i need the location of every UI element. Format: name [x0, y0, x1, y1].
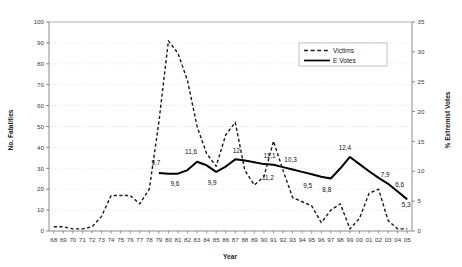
x-axis-tick-label: 76	[127, 236, 134, 243]
x-axis-tick-label: 92	[280, 236, 287, 243]
data-label: 9,9	[208, 179, 217, 186]
left-axis-tick-label: 20	[37, 185, 44, 192]
x-axis-tick-label: 81	[175, 236, 182, 243]
x-axis-tick-label: 71	[79, 236, 86, 243]
left-axis-tick-label: 90	[37, 39, 44, 46]
x-axis-tick-label: 82	[184, 236, 191, 243]
x-axis-tick-label: 98	[337, 236, 344, 243]
data-label: 11,1	[264, 152, 276, 159]
x-axis-tick-label: 73	[98, 236, 105, 243]
x-axis-tick-label: 89	[251, 236, 258, 243]
x-axis-tick-label: 95	[308, 236, 315, 243]
right-axis-title: % Extremist Votes	[444, 91, 451, 148]
x-axis-tick-label: 84	[203, 236, 210, 243]
left-axis-title: No. Fatalities	[7, 109, 14, 150]
left-axis-tick-label: 80	[37, 60, 44, 67]
right-axis-tick-label: 10	[418, 167, 425, 174]
data-label: 8,8	[322, 186, 331, 193]
chart-background	[0, 0, 462, 267]
x-axis-tick-label: 88	[241, 236, 248, 243]
x-axis-tick-label: 99	[346, 236, 353, 243]
x-axis-tick-label: 74	[108, 236, 115, 243]
x-axis-tick-label: 69	[60, 236, 67, 243]
left-axis-tick-label: 70	[37, 81, 44, 88]
x-axis-tick-label: 86	[222, 236, 229, 243]
x-axis-tick-label: 00	[356, 236, 363, 243]
right-axis-tick-label: 20	[418, 108, 425, 115]
right-axis-tick-label: 5	[418, 197, 422, 204]
right-axis-tick-label: 30	[418, 48, 425, 55]
legend-label-e-votes: E Votes	[333, 57, 356, 64]
data-label: 5,3	[402, 201, 411, 208]
fatalities-extremist-votes-chart: 0102030405060708090100 05101520253035 68…	[0, 0, 462, 267]
chart-container: 0102030405060708090100 05101520253035 68…	[0, 0, 462, 267]
data-label: 12	[233, 147, 241, 154]
right-axis-tick-label: 15	[418, 138, 425, 145]
chart-legend[interactable]: Victims E Votes	[299, 43, 387, 66]
data-label: 12,4	[339, 144, 352, 151]
x-axis-tick-label: 97	[327, 236, 334, 243]
x-axis-tick-label: 79	[155, 236, 162, 243]
left-axis-tick-label: 40	[37, 144, 44, 151]
legend-label-victims: Victims	[333, 47, 355, 54]
right-axis-tick-label: 25	[418, 78, 425, 85]
left-axis-tick-label: 50	[37, 123, 44, 130]
x-axis-tick-label: 90	[260, 236, 267, 243]
x-axis-tick-label: 77	[136, 236, 143, 243]
x-axis-tick-label: 05	[404, 236, 411, 243]
data-label: 9,6	[171, 180, 180, 187]
right-axis-tick-label: 0	[418, 227, 422, 234]
left-axis-tick-label: 10	[37, 206, 44, 213]
x-axis-tick-label: 78	[146, 236, 153, 243]
x-axis-tick-label: 75	[117, 236, 124, 243]
x-axis-tick-label: 94	[299, 236, 306, 243]
left-axis-tick-label: 0	[41, 227, 45, 234]
x-axis-tick-label: 91	[270, 236, 277, 243]
x-axis-tick-label: 87	[232, 236, 239, 243]
x-axis-tick-label: 02	[375, 236, 382, 243]
data-label: 6,6	[395, 181, 404, 188]
x-axis-tick-label: 68	[50, 236, 57, 243]
data-label: 10,3	[284, 156, 297, 163]
x-axis-tick-label: 04	[394, 236, 401, 243]
left-axis-tick-label: 100	[34, 18, 45, 25]
x-axis-tick-label: 03	[385, 236, 392, 243]
x-axis-tick-label: 85	[213, 236, 220, 243]
x-axis-tick-label: 70	[69, 236, 76, 243]
x-axis-tick-label: 80	[165, 236, 172, 243]
data-label: 7,9	[381, 171, 390, 178]
x-axis-tick-label: 72	[89, 236, 96, 243]
x-axis-tick-label: 01	[366, 236, 373, 243]
left-axis-tick-label: 60	[37, 102, 44, 109]
x-axis-title: Year	[223, 253, 237, 260]
left-axis-tick-label: 30	[37, 165, 44, 172]
data-label: 9,5	[303, 182, 312, 189]
data-label: 11,6	[185, 148, 197, 155]
x-axis-tick-label: 96	[318, 236, 325, 243]
data-label: 11,2	[262, 174, 274, 181]
data-label: 9,7	[151, 159, 160, 166]
x-axis-tick-label: 93	[289, 236, 296, 243]
right-axis-tick-label: 35	[418, 18, 425, 25]
x-axis-tick-label: 83	[194, 236, 201, 243]
